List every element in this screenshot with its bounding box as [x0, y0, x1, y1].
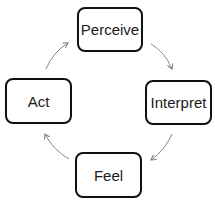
arrow-perceive-to-interpret	[151, 44, 172, 69]
arrow-act-to-perceive	[46, 43, 68, 69]
node-label: Act	[28, 93, 50, 110]
arrow-interpret-to-feel	[151, 134, 172, 160]
node-label: Perceive	[81, 21, 139, 38]
node-label: Interpret	[151, 94, 207, 111]
node-perceive: Perceive	[77, 7, 143, 52]
arrow-feel-to-act	[45, 134, 69, 159]
node-interpret: Interpret	[145, 80, 212, 125]
node-act: Act	[5, 78, 72, 124]
node-label: Feel	[94, 167, 123, 184]
node-feel: Feel	[75, 152, 142, 198]
